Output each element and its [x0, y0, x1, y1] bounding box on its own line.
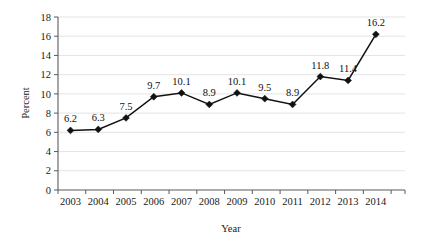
chart-canvas: 024681012141618 200320042005200620072008…: [0, 0, 428, 246]
x-tick-label: 2014: [365, 196, 387, 207]
line-chart: 024681012141618 200320042005200620072008…: [0, 0, 428, 246]
data-point-label: 8.9: [286, 87, 299, 98]
y-tick-label: 6: [46, 127, 51, 138]
y-tick-label: 8: [46, 108, 51, 119]
x-tick-label: 2009: [227, 196, 248, 207]
x-tick-label: 2013: [338, 196, 359, 207]
x-tick-label: 2008: [199, 196, 220, 207]
x-tick-label: 2003: [60, 196, 81, 207]
x-tick-label: 2011: [282, 196, 303, 207]
y-tick-label: 2: [46, 165, 51, 176]
y-tick-label: 16: [41, 31, 52, 42]
y-tick-label: 14: [41, 50, 52, 61]
x-tick-label: 2004: [88, 196, 110, 207]
y-tick-label: 12: [41, 69, 52, 80]
data-point-label: 9.7: [147, 80, 160, 91]
data-point-label: 8.9: [203, 87, 216, 98]
data-point-label: 7.5: [119, 101, 132, 112]
data-point-label: 10.1: [172, 76, 190, 87]
y-axis-title: Percent: [20, 87, 31, 119]
data-point-label: 9.5: [258, 82, 271, 93]
y-tick-label: 10: [41, 89, 52, 100]
x-tick-label: 2012: [310, 196, 331, 207]
x-axis-title: Year: [221, 223, 241, 234]
x-tick-label: 2005: [116, 196, 137, 207]
data-point-label: 10.1: [228, 76, 246, 87]
y-tick-label: 18: [41, 12, 52, 23]
data-point-label: 11.8: [311, 60, 329, 71]
x-tick-label: 2010: [254, 196, 275, 207]
x-tick-label: 2006: [143, 196, 164, 207]
data-point-label: 6.3: [92, 112, 105, 123]
data-point-label: 6.2: [64, 113, 77, 124]
data-point-label: 16.2: [367, 17, 385, 28]
x-tick-label: 2007: [171, 196, 192, 207]
y-tick-label: 4: [46, 146, 52, 157]
y-tick-label: 0: [46, 185, 51, 196]
data-point-label: 11.4: [339, 63, 358, 74]
